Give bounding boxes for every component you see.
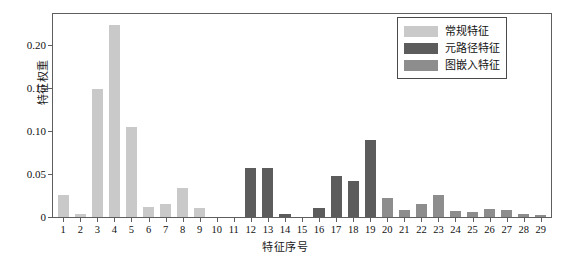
x-tick-label: 15: [297, 224, 308, 235]
x-tick-label: 12: [246, 224, 257, 235]
x-tick-label: 6: [146, 224, 151, 235]
x-tick-label: 27: [501, 224, 512, 235]
legend-swatch-icon: [404, 43, 438, 54]
x-tick-mark: [251, 218, 252, 222]
x-tick-mark: [97, 218, 98, 222]
bar: [382, 198, 393, 217]
bar: [535, 215, 546, 217]
x-tick-mark: [421, 218, 422, 222]
x-tick-label: 9: [197, 224, 202, 235]
x-tick-mark: [353, 218, 354, 222]
bar: [348, 181, 359, 217]
x-tick-label: 5: [129, 224, 134, 235]
bar: [177, 188, 188, 217]
x-tick-label: 21: [399, 224, 410, 235]
bar: [245, 168, 256, 217]
x-tick-mark: [63, 218, 64, 222]
chart-legend: 常规特征元路径特征图嵌入特征: [397, 17, 507, 79]
x-tick-label: 14: [280, 224, 291, 235]
x-tick-mark: [438, 218, 439, 222]
legend-swatch-icon: [404, 60, 438, 71]
x-tick-label: 22: [416, 224, 427, 235]
x-tick-mark: [370, 218, 371, 222]
bar: [109, 25, 120, 217]
bar: [484, 209, 495, 217]
x-tick-mark: [404, 218, 405, 222]
x-tick-mark: [490, 218, 491, 222]
x-tick-mark: [524, 218, 525, 222]
x-tick-mark: [302, 218, 303, 222]
x-tick-mark: [473, 218, 474, 222]
x-tick-label: 8: [180, 224, 185, 235]
bar: [467, 212, 478, 217]
bar: [313, 208, 324, 217]
x-tick-label: 20: [382, 224, 393, 235]
x-tick-label: 18: [348, 224, 359, 235]
x-tick-label: 10: [211, 224, 222, 235]
x-tick-label: 24: [450, 224, 461, 235]
bar: [501, 210, 512, 217]
x-tick-mark: [541, 218, 542, 222]
bar: [143, 207, 154, 217]
x-tick-label: 2: [78, 224, 83, 235]
x-tick-mark: [149, 218, 150, 222]
bar: [92, 89, 103, 217]
x-tick-mark: [507, 218, 508, 222]
y-tick-label: 0.20: [0, 39, 46, 51]
legend-item: 元路径特征: [404, 40, 500, 56]
x-tick-mark: [455, 218, 456, 222]
x-tick-mark: [114, 218, 115, 222]
y-tick-label: 0: [0, 211, 46, 223]
x-tick-mark: [387, 218, 388, 222]
x-tick-label: 25: [467, 224, 478, 235]
x-tick-mark: [336, 218, 337, 222]
x-tick-label: 3: [95, 224, 100, 235]
y-tick-label: 0.05: [0, 168, 46, 180]
bar: [399, 210, 410, 217]
x-tick-label: 19: [365, 224, 376, 235]
x-tick-label: 16: [314, 224, 325, 235]
x-tick-label: 26: [484, 224, 495, 235]
bar: [262, 168, 273, 217]
legend-label: 元路径特征: [445, 43, 500, 54]
bar: [331, 176, 342, 217]
x-tick-label: 11: [229, 224, 239, 235]
legend-item: 常规特征: [404, 23, 500, 39]
x-tick-label: 13: [263, 224, 274, 235]
legend-label: 图嵌入特征: [445, 60, 500, 71]
x-tick-label: 4: [112, 224, 117, 235]
bar: [58, 195, 69, 217]
x-tick-mark: [217, 218, 218, 222]
bar: [450, 211, 461, 217]
x-tick-mark: [166, 218, 167, 222]
bar: [518, 214, 529, 217]
y-tick-label: 0.10: [0, 125, 46, 137]
x-tick-mark: [200, 218, 201, 222]
figure-canvas: 特征权重 00.050.100.150.20 12345678910111213…: [0, 0, 570, 263]
x-tick-mark: [234, 218, 235, 222]
legend-label: 常规特征: [445, 26, 489, 37]
bar: [365, 140, 376, 217]
x-tick-label: 17: [331, 224, 342, 235]
bar: [160, 204, 171, 217]
x-tick-label: 7: [163, 224, 168, 235]
x-tick-label: 23: [433, 224, 444, 235]
x-tick-mark: [319, 218, 320, 222]
bar: [433, 195, 444, 217]
x-tick-label: 1: [61, 224, 66, 235]
x-axis-label: 特征序号: [0, 238, 570, 254]
legend-item: 图嵌入特征: [404, 57, 500, 73]
x-tick-mark: [268, 218, 269, 222]
x-tick-mark: [131, 218, 132, 222]
bar: [416, 204, 427, 217]
bar: [194, 208, 205, 217]
bar: [279, 214, 290, 217]
x-tick-mark: [285, 218, 286, 222]
x-tick-mark: [183, 218, 184, 222]
y-axis-ticks: 00.050.100.150.20: [0, 0, 52, 263]
bar: [75, 214, 86, 217]
legend-swatch-icon: [404, 26, 438, 37]
y-tick-label: 0.15: [0, 82, 46, 94]
x-tick-label: 29: [536, 224, 547, 235]
x-tick-mark: [80, 218, 81, 222]
